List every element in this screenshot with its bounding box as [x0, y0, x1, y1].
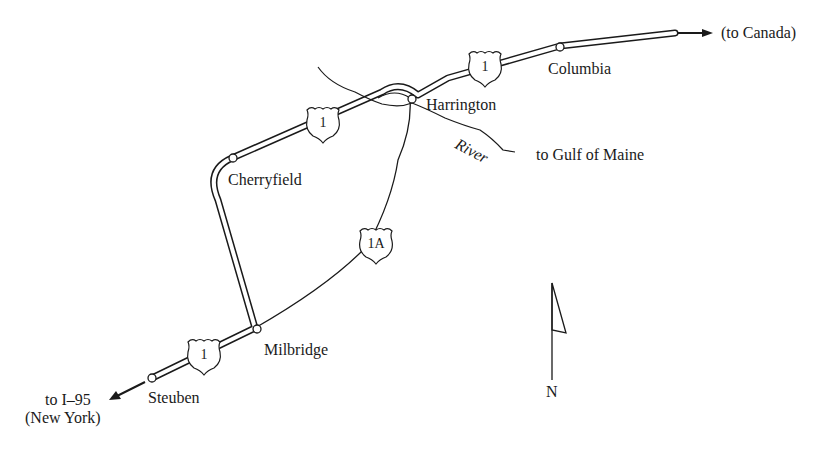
town-marker-steuben	[148, 374, 156, 382]
map-drawing	[0, 0, 837, 456]
direction-label-to-gulf-of-maine: to Gulf of Maine	[536, 147, 644, 163]
town-marker-cherryfield	[229, 154, 237, 162]
route-1-shield-label: 1	[475, 60, 495, 74]
town-label-harrington: Harrington	[426, 97, 496, 113]
arrow-to-i95	[109, 382, 145, 400]
direction-label-to-canada: (to Canada)	[721, 25, 796, 41]
town-label-milbridge: Milbridge	[264, 342, 328, 358]
town-label-columbia: Columbia	[548, 61, 611, 77]
direction-label-to-i95: to I–95	[45, 392, 91, 408]
town-label-steuben: Steuben	[148, 390, 200, 406]
route-1-shield-label: 1	[194, 348, 214, 362]
direction-label-new-york: (New York)	[25, 410, 101, 426]
north-arrow-icon	[552, 283, 566, 380]
arrow-to-canada	[677, 29, 713, 37]
route-1-highway	[152, 33, 675, 378]
north-label: N	[546, 384, 558, 400]
town-marker-harrington	[408, 95, 416, 103]
town-label-cherryfield: Cherryfield	[228, 172, 302, 188]
route-1a-shield-label: 1A	[364, 237, 388, 251]
route-1-shield-label: 1	[313, 116, 333, 130]
map-canvas: 1 1 1 1A Columbia Harrington Cherryfield…	[0, 0, 837, 456]
town-marker-milbridge	[253, 325, 261, 333]
town-marker-columbia	[556, 43, 564, 51]
